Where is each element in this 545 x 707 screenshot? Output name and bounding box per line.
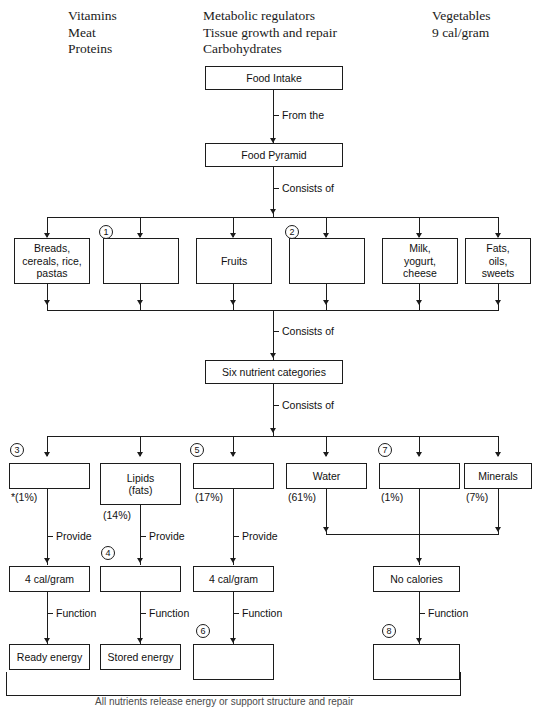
node-cal-none-label: No calories <box>388 573 445 586</box>
merge-stem-2 <box>140 284 141 311</box>
blank-number-3: 3 <box>10 443 24 457</box>
merge-stem-3 <box>233 284 234 311</box>
arrowhead-nutrient-1 <box>44 452 50 457</box>
edge-tick-function-3 <box>234 613 239 614</box>
word-bank-column-1: Vitamins Meat Proteins <box>68 8 117 58</box>
arrowhead-blank5-to-cal <box>230 558 236 563</box>
node-group-fruits: Fruits <box>196 238 272 284</box>
node-fn-stored: Stored energy <box>100 644 181 670</box>
pct-lipids: (14%) <box>103 510 131 521</box>
edge-label-consists-of-2: Consists of <box>281 326 334 337</box>
arrowhead-merge-5 <box>416 300 422 305</box>
edge-tick-provide-1 <box>48 536 53 537</box>
arrowhead-merge-6 <box>495 300 501 305</box>
arrowhead-pyramid-to-bus <box>270 209 276 214</box>
blank-number-1: 1 <box>99 225 113 239</box>
arrowhead-merge-4 <box>323 300 329 305</box>
edge-tick-provide-3 <box>234 536 239 537</box>
node-cal-blank-4[interactable] <box>100 566 181 592</box>
node-group-breads-label: Breads, cereals, rice, pastas <box>20 242 84 280</box>
edge-label-provide-1: Provide <box>55 531 92 542</box>
edge-label-function-1: Function <box>55 608 96 619</box>
merge-stem-4 <box>326 284 327 311</box>
bus-food-groups <box>47 217 499 218</box>
edge-blank5-to-cal <box>233 489 234 565</box>
edge-label-provide-2: Provide <box>148 531 185 542</box>
node-fn-ready: Ready energy <box>9 644 90 670</box>
node-nutrient-lipids: Lipids (fats) <box>100 463 181 505</box>
arrowhead-nutrient-5 <box>416 452 422 457</box>
edge-tick-provide-2 <box>141 536 146 537</box>
node-six-nutrient-categories-label: Six nutrient categories <box>220 366 328 379</box>
pct-blank-5: (17%) <box>195 492 223 503</box>
edge-lipids-to-blank4 <box>140 505 141 565</box>
edge-blank3-to-cal <box>47 489 48 565</box>
blank-number-5: 5 <box>190 443 204 457</box>
arrowhead-groups-to-six <box>270 353 276 358</box>
footnote-text: All nutrients release energy or support … <box>95 696 353 707</box>
node-group-fats-label: Fats, oils, sweets <box>480 242 517 280</box>
node-nutrient-minerals: Minerals <box>464 463 532 489</box>
node-fn-blank-6[interactable] <box>193 644 274 680</box>
node-nutrient-blank-7[interactable] <box>379 463 460 489</box>
arrowhead-minerals-down <box>495 527 501 532</box>
node-food-intake-label: Food Intake <box>244 72 303 85</box>
node-food-pyramid: Food Pyramid <box>205 143 343 167</box>
arrowhead-function-4 <box>416 638 422 643</box>
arrowhead-function-3 <box>230 638 236 643</box>
node-group-fats: Fats, oils, sweets <box>465 238 531 284</box>
arrowhead-nutrient-4 <box>323 452 329 457</box>
edge-label-function-2: Function <box>148 608 189 619</box>
arrowhead-function-2 <box>137 638 143 643</box>
node-group-blank-2[interactable] <box>289 238 365 284</box>
node-nutrient-lipids-label: Lipids (fats) <box>125 472 156 497</box>
merge-bus-no-calories <box>326 534 499 535</box>
node-fn-blank-8[interactable] <box>373 644 460 680</box>
edge-tick-consists-of-2 <box>274 331 279 332</box>
node-nutrient-blank-3[interactable] <box>9 463 90 489</box>
node-cal-mid: 4 cal/gram <box>193 566 274 592</box>
edge-label-function-3: Function <box>241 608 282 619</box>
node-nutrient-blank-5[interactable] <box>193 463 274 489</box>
blank-number-8: 8 <box>382 624 396 638</box>
arrowhead-merge-3 <box>230 300 236 305</box>
arrowhead-merge-1 <box>44 300 50 305</box>
pct-blank-7: (1%) <box>381 492 403 503</box>
merge-stem-1 <box>47 284 48 311</box>
node-food-intake: Food Intake <box>205 66 343 90</box>
edge-tick-from-the <box>274 115 279 116</box>
arrowhead-water-down <box>323 527 329 532</box>
edge-label-consists-of-3: Consists of <box>281 400 334 411</box>
node-nutrient-water: Water <box>286 463 367 489</box>
blank-number-4: 4 <box>101 546 115 560</box>
arrowhead-function-1 <box>44 638 50 643</box>
node-cal-none: No calories <box>373 566 460 592</box>
node-nutrient-minerals-label: Minerals <box>476 470 520 483</box>
arrowhead-blank7-to-nocal <box>416 558 422 563</box>
node-group-fruits-label: Fruits <box>219 255 249 268</box>
node-food-pyramid-label: Food Pyramid <box>239 149 308 162</box>
arrowhead-nutrient-2 <box>137 452 143 457</box>
pct-minerals: (7%) <box>466 492 488 503</box>
arrowhead-blank3-to-cal <box>44 558 50 563</box>
merge-stem-5 <box>419 284 420 311</box>
blank-number-7: 7 <box>378 443 392 457</box>
edge-tick-function-1 <box>48 613 53 614</box>
node-group-breads: Breads, cereals, rice, pastas <box>14 238 90 284</box>
node-cal-left: 4 cal/gram <box>9 566 90 592</box>
arrowhead-merge-2 <box>137 300 143 305</box>
edge-label-from-the: From the <box>281 110 324 121</box>
pct-water: (61%) <box>288 492 316 503</box>
blank-number-6: 6 <box>196 624 210 638</box>
node-group-milk-label: Milk, yogurt, cheese <box>401 242 439 280</box>
node-fn-stored-label: Stored energy <box>106 651 176 664</box>
edge-label-provide-3: Provide <box>241 531 278 542</box>
arrowhead-nutrient-6 <box>495 452 501 457</box>
edge-tick-function-4 <box>420 613 425 614</box>
node-group-blank-1[interactable] <box>103 238 179 284</box>
node-group-milk: Milk, yogurt, cheese <box>382 238 458 284</box>
edge-label-consists-of-1: Consists of <box>281 183 334 194</box>
arrowhead-six-to-bus <box>270 428 276 433</box>
edge-tick-consists-of-3 <box>274 405 279 406</box>
